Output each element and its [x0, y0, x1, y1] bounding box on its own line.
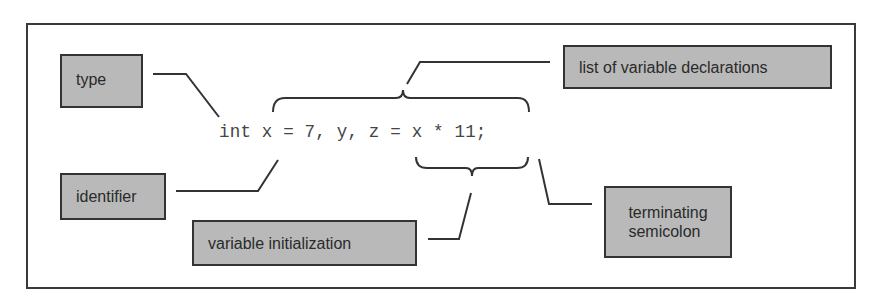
terminating-semicolon-label-box: terminating semicolon [604, 186, 732, 258]
terminating-semicolon-label: terminating semicolon [628, 203, 707, 241]
type-label-box: type [60, 54, 143, 108]
variable-initialization-label: variable initialization [208, 234, 351, 253]
type-label: type [76, 70, 106, 89]
identifier-label-box: identifier [60, 173, 166, 220]
list-declarations-label: list of variable declarations [579, 58, 768, 77]
variable-initialization-label-box: variable initialization [192, 220, 417, 266]
identifier-label: identifier [76, 187, 136, 206]
code-statement: int x = 7, y, z = x * 11; [219, 122, 487, 142]
list-declarations-label-box: list of variable declarations [563, 45, 832, 89]
